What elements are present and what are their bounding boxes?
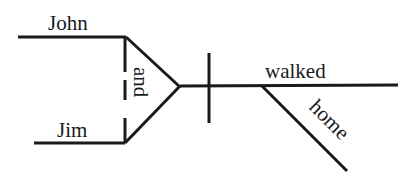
- baseline: [180, 85, 398, 86]
- word-jim: Jim: [57, 118, 87, 142]
- word-john: John: [48, 11, 88, 35]
- word-and: and: [129, 67, 153, 98]
- word-walked: walked: [265, 59, 326, 83]
- sentence-diagram: John Jim and walked home: [0, 0, 416, 177]
